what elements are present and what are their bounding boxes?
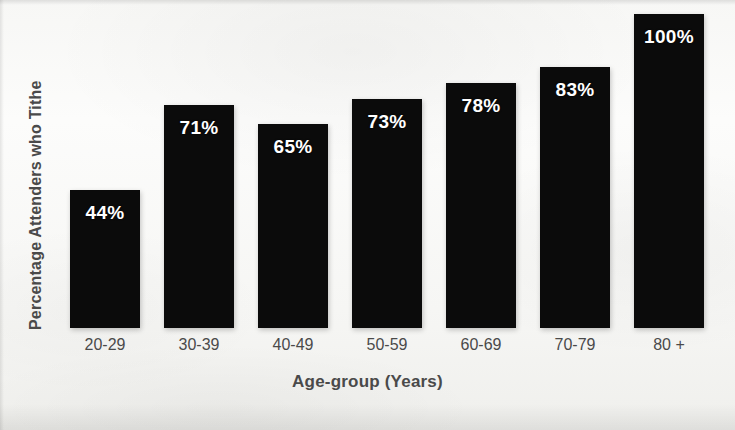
x-axis-tick-label: 70-79	[540, 336, 610, 354]
scan-edge-left	[0, 0, 4, 430]
x-axis-tick-label: 80 +	[634, 336, 704, 354]
x-axis-tick-labels: 20-2930-3940-4950-5960-6970-7980 +	[62, 336, 722, 362]
bar[interactable]	[634, 14, 704, 328]
bar-value-label: 44%	[70, 202, 140, 224]
x-axis-tick-label: 60-69	[446, 336, 516, 354]
bar-value-label: 71%	[164, 117, 234, 139]
bar-group: 71%	[164, 14, 234, 328]
chart-page: Percentage Attenders who Tithe 44%71%65%…	[0, 0, 735, 430]
bar[interactable]	[352, 99, 422, 328]
scan-edge-top	[0, 0, 735, 5]
bar-value-label: 73%	[352, 111, 422, 133]
y-axis-title: Percentage Attenders who Tithe	[16, 0, 56, 340]
x-axis-tick-label: 30-39	[164, 336, 234, 354]
bar-value-label: 65%	[258, 136, 328, 158]
plot-area: 44%71%65%73%78%83%100%	[62, 14, 722, 328]
bar-group: 78%	[446, 14, 516, 328]
bar-value-label: 100%	[634, 26, 704, 48]
bar[interactable]	[446, 83, 516, 328]
bar-value-label: 83%	[540, 79, 610, 101]
bar-group: 44%	[70, 14, 140, 328]
x-axis-tick-label: 40-49	[258, 336, 328, 354]
x-axis-tick-label: 50-59	[352, 336, 422, 354]
bar[interactable]	[540, 67, 610, 328]
y-axis-title-text: Percentage Attenders who Tithe	[27, 80, 45, 330]
bar-group: 100%	[634, 14, 704, 328]
x-axis-title: Age-group (Years)	[0, 372, 735, 392]
bar-value-label: 78%	[446, 95, 516, 117]
bar-group: 65%	[258, 14, 328, 328]
scan-edge-bottom	[0, 404, 735, 430]
bar-group: 73%	[352, 14, 422, 328]
bar-group: 83%	[540, 14, 610, 328]
x-axis-tick-label: 20-29	[70, 336, 140, 354]
